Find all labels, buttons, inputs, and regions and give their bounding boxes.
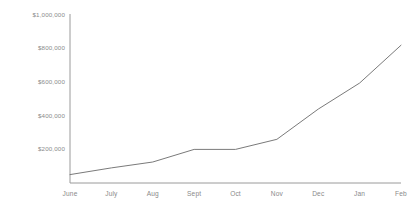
x-axis-tick-label: Nov — [257, 191, 297, 198]
x-axis-tick-label: Feb — [381, 191, 420, 198]
y-axis-tick-label: $800,000 — [38, 45, 65, 51]
x-axis-tick-label: Sept — [174, 191, 214, 198]
y-axis-tick-label: $600,000 — [38, 79, 65, 85]
chart-plot-area — [0, 0, 420, 211]
x-axis-tick-label: Dec — [298, 191, 338, 198]
x-axis-tick-label: July — [91, 191, 131, 198]
x-axis-tick-label: Oct — [216, 191, 256, 198]
line-chart: $1,000,000 $800,000 $600,000 $400,000 $2… — [0, 0, 420, 211]
y-axis-tick-label: $1,000,000 — [33, 12, 65, 18]
y-axis-tick-label: $200,000 — [38, 146, 65, 152]
data-series-line — [70, 45, 401, 174]
y-axis-tick-label: $400,000 — [38, 113, 65, 119]
x-axis-tick-label: June — [50, 191, 90, 198]
x-axis-tick-label: Jan — [340, 191, 380, 198]
x-axis-tick-label: Aug — [133, 191, 173, 198]
